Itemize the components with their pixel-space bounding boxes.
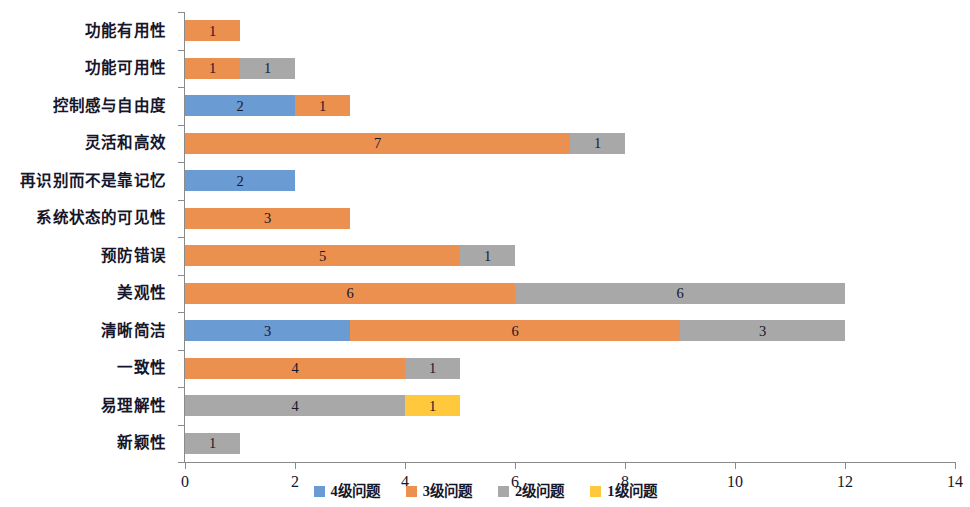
bar-row: 71 [185, 133, 955, 154]
category-label: 功能有用性 [0, 23, 166, 39]
bar-row: 51 [185, 245, 955, 266]
bar-row: 2 [185, 170, 955, 191]
bar-value-label: 3 [264, 324, 271, 339]
bar-segment: 3 [680, 320, 845, 341]
bar-segment: 6 [350, 320, 680, 341]
bar-row: 363 [185, 320, 955, 341]
bar-value-label: 1 [429, 399, 436, 414]
y-axis-tick [178, 87, 185, 88]
bar-value-label: 7 [374, 136, 381, 151]
y-axis-tick [178, 275, 185, 276]
bar-value-label: 1 [319, 99, 326, 114]
bar-value-label: 1 [209, 24, 216, 39]
category-label: 系统状态的可见性 [0, 210, 166, 226]
legend-swatch-icon [314, 486, 325, 497]
bar-value-label: 2 [236, 99, 243, 114]
category-label: 再识别而不是靠记忆 [0, 173, 166, 189]
bar-value-label: 6 [511, 324, 518, 339]
x-axis-tick [845, 462, 846, 469]
x-axis-tick [625, 462, 626, 469]
bar-segment: 2 [185, 170, 295, 191]
bar-row: 21 [185, 95, 955, 116]
legend-swatch-icon [590, 486, 601, 497]
legend-label: 2级问题 [515, 484, 564, 499]
plot-area: 02468101214 111217123516636341411 [185, 12, 955, 462]
bar-segment: 4 [185, 395, 405, 416]
category-label: 灵活和高效 [0, 135, 166, 151]
bar-value-label: 2 [236, 174, 243, 189]
x-axis-tick [955, 462, 956, 469]
bar-value-label: 4 [291, 399, 298, 414]
x-axis-tick [185, 462, 186, 469]
legend-swatch-icon [498, 486, 509, 497]
y-axis-tick [178, 350, 185, 351]
legend-item[interactable]: 2级问题 [498, 484, 564, 499]
y-axis-tick [178, 50, 185, 51]
legend-label: 4级问题 [331, 484, 380, 499]
category-axis-labels: 功能有用性功能可用性控制感与自由度灵活和高效再识别而不是靠记忆系统状态的可见性预… [0, 12, 176, 462]
category-label: 美观性 [0, 285, 166, 301]
bar-segment: 1 [185, 58, 240, 79]
bar-row: 3 [185, 208, 955, 229]
bar-value-label: 1 [594, 136, 601, 151]
bar-segment: 1 [570, 133, 625, 154]
bar-value-label: 1 [429, 361, 436, 376]
bar-value-label: 3 [264, 211, 271, 226]
y-axis-tick [178, 200, 185, 201]
bar-value-label: 1 [264, 61, 271, 76]
bar-segment: 1 [405, 395, 460, 416]
category-label: 易理解性 [0, 398, 166, 414]
legend-swatch-icon [406, 486, 417, 497]
bar-row: 11 [185, 58, 955, 79]
x-axis-tick [295, 462, 296, 469]
bar-segment: 7 [185, 133, 570, 154]
bar-segment: 6 [515, 283, 845, 304]
y-axis-tick [178, 425, 185, 426]
legend-label: 3级问题 [423, 484, 472, 499]
bar-value-label: 1 [209, 436, 216, 451]
bar-value-label: 4 [291, 361, 298, 376]
bar-value-label: 1 [209, 61, 216, 76]
y-axis-tick [178, 12, 185, 13]
y-axis-tick [178, 312, 185, 313]
y-axis-tick [178, 387, 185, 388]
bar-value-label: 6 [676, 286, 683, 301]
bar-segment: 4 [185, 358, 405, 379]
legend-item[interactable]: 1级问题 [590, 484, 656, 499]
bar-segment: 1 [295, 95, 350, 116]
bar-segment: 1 [460, 245, 515, 266]
legend-item[interactable]: 3级问题 [406, 484, 472, 499]
bar-segment: 1 [240, 58, 295, 79]
x-axis-tick [405, 462, 406, 469]
y-axis-tick [178, 237, 185, 238]
bar-row: 66 [185, 283, 955, 304]
stacked-bar-chart: 功能有用性功能可用性控制感与自由度灵活和高效再识别而不是靠记忆系统状态的可见性预… [0, 0, 970, 507]
bar-value-label: 1 [484, 249, 491, 264]
bar-segment: 1 [185, 433, 240, 454]
category-label: 预防错误 [0, 248, 166, 264]
bar-segment: 3 [185, 208, 350, 229]
y-axis-tick [178, 125, 185, 126]
bar-value-label: 6 [346, 286, 353, 301]
category-label: 功能可用性 [0, 60, 166, 76]
x-axis-line [184, 462, 955, 463]
bar-segment: 3 [185, 320, 350, 341]
category-label: 一致性 [0, 360, 166, 376]
category-label: 新颖性 [0, 435, 166, 451]
bar-segment: 5 [185, 245, 460, 266]
legend-label: 1级问题 [607, 484, 656, 499]
y-axis-tick [178, 162, 185, 163]
bar-segment: 1 [185, 20, 240, 41]
bar-segment: 1 [405, 358, 460, 379]
chart-legend: 4级问题3级问题2级问题1级问题 [0, 484, 970, 499]
x-axis-tick [515, 462, 516, 469]
bar-value-label: 5 [319, 249, 326, 264]
legend-item[interactable]: 4级问题 [314, 484, 380, 499]
category-label: 控制感与自由度 [0, 98, 166, 114]
category-label: 清晰简洁 [0, 323, 166, 339]
x-axis-tick [735, 462, 736, 469]
bar-row: 1 [185, 20, 955, 41]
bar-row: 41 [185, 395, 955, 416]
bar-row: 41 [185, 358, 955, 379]
bar-value-label: 3 [759, 324, 766, 339]
